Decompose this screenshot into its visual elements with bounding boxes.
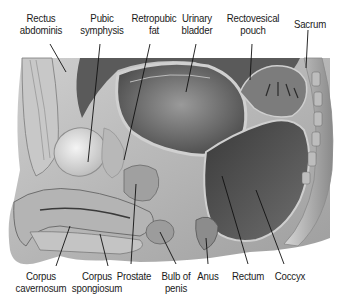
label-pubic-symphysis: Pubic symphysis: [74, 12, 129, 36]
label-line: Rectovesical: [223, 12, 284, 24]
label-line: cavernosum: [11, 282, 72, 294]
label-line: Rectum: [230, 270, 267, 282]
label-line: Coccyx: [272, 270, 309, 282]
label-rectus-abdominis: Rectus abdominis: [9, 12, 73, 36]
label-line: bladder: [174, 24, 220, 36]
label-sacrum: Sacrum: [290, 18, 330, 30]
label-line: penis: [158, 282, 195, 294]
label-line: Bulb of: [158, 270, 195, 282]
label-line: Sacrum: [290, 18, 330, 30]
label-line: Anus: [195, 270, 221, 282]
label-rectum: Rectum: [230, 270, 267, 282]
label-coccyx: Coccyx: [272, 270, 309, 282]
label-line: Pubic: [74, 12, 129, 24]
prostate-shape: [124, 165, 159, 201]
label-corpus-cavernosum: Corpus cavernosum: [11, 270, 72, 294]
label-line: Rectus: [9, 12, 73, 24]
label-line: Urinary: [174, 12, 220, 24]
label-line: Corpus: [11, 270, 72, 282]
label-line: pouch: [223, 24, 284, 36]
label-line: spongiosum: [67, 282, 128, 294]
label-line: symphysis: [74, 24, 129, 36]
label-rectovesical-pouch: Rectovesical pouch: [223, 12, 284, 36]
label-anus: Anus: [195, 270, 221, 282]
label-line: Prostate: [114, 270, 154, 282]
label-prostate: Prostate: [114, 270, 154, 282]
anatomy-figure: Rectus abdominis Pubic symphysis Retropu…: [0, 0, 338, 303]
label-line: abdominis: [9, 24, 73, 36]
label-urinary-bladder: Urinary bladder: [174, 12, 220, 36]
pelvis-illustration: [0, 0, 338, 303]
label-bulb-of-penis: Bulb of penis: [158, 270, 195, 294]
